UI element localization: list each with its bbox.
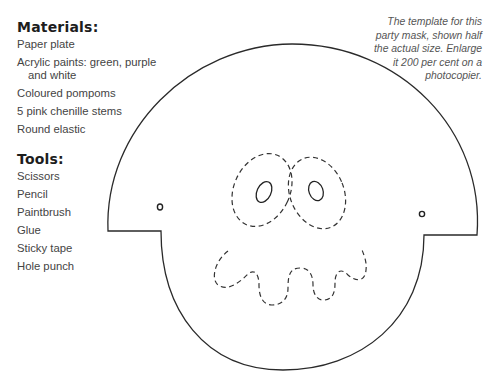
left-eye-cut-line: [221, 144, 304, 237]
right-eye-hole: [306, 179, 326, 203]
mouth-cut-line: [214, 250, 366, 305]
left-strap-hole-icon: [157, 204, 162, 210]
right-eye-cut-line: [278, 149, 356, 238]
right-strap-hole-icon: [419, 211, 424, 216]
mask-outline: [108, 44, 478, 370]
left-eye-hole: [253, 179, 275, 205]
mask-template-illustration: [0, 0, 493, 379]
